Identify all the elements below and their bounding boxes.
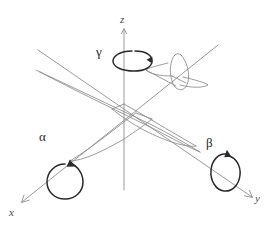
axis-group [22,29,253,203]
fuselage-upper-contour [40,72,200,152]
alpha-arc [47,163,83,199]
axis-label-y: y [255,193,260,204]
axis-label-z: z [120,14,124,25]
fuselage-nose-tip [36,70,40,72]
angle-label-beta: β [206,136,213,149]
horizontal-stabilizer-left [146,63,172,76]
axis-y-line [38,50,252,197]
beta-arc [211,154,240,191]
beta-rotation-arrow [211,149,240,191]
angle-label-gamma: γ [96,45,102,58]
gamma-arc [113,51,152,71]
angle-label-alpha: α [39,130,46,143]
left-wing-trailing-edge [70,119,152,161]
aircraft-euler-angle-diagram: z x y γ α β [0,0,274,232]
alpha-rotation-arrow [47,160,83,199]
axis-label-x: x [9,207,14,218]
diagram-canvas [0,0,274,232]
